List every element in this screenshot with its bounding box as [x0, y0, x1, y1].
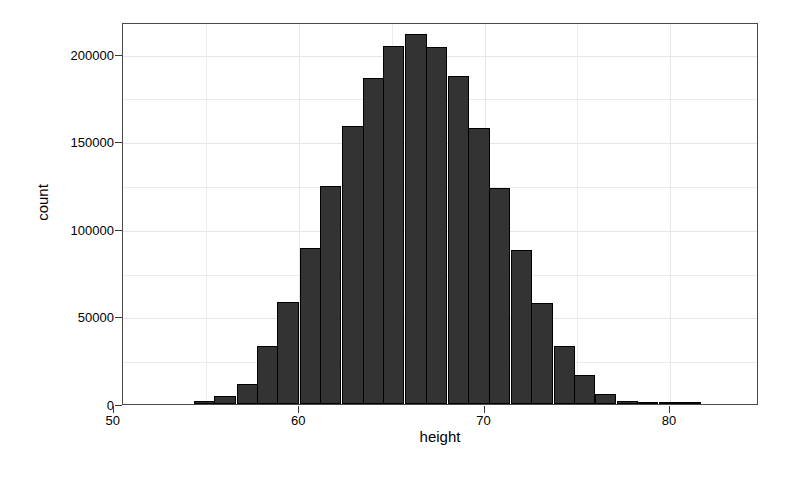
histogram-bar [194, 401, 215, 404]
gridline-vertical-major [670, 24, 671, 404]
x-axis-tick-mark [113, 406, 114, 413]
histogram-bar [659, 402, 680, 404]
histogram-bar [448, 76, 469, 404]
histogram-bar [554, 346, 575, 404]
histogram-bar [214, 396, 235, 404]
histogram-bar [426, 47, 447, 404]
y-axis-tick-mark [115, 142, 122, 143]
histogram-bar [574, 375, 595, 404]
histogram-bar [383, 46, 404, 404]
histogram-bar [320, 186, 341, 404]
histogram-figure: count 050000100000150000200000 50607080 … [0, 0, 791, 477]
y-axis-tick-label: 100000 [52, 222, 114, 237]
histogram-bar [637, 402, 658, 404]
histogram-bar [277, 302, 298, 405]
histogram-bar [300, 248, 321, 404]
gridline-vertical-minor [206, 24, 207, 404]
x-axis-tick-label: 60 [291, 413, 305, 428]
x-axis-tick-label: 70 [476, 413, 490, 428]
histogram-bar [511, 250, 532, 404]
y-axis-tick-label: 50000 [52, 310, 114, 325]
y-axis-tick-mark [115, 405, 122, 406]
y-axis-title: count [30, 0, 54, 405]
histogram-bar [617, 401, 638, 405]
y-axis-title-text: count [34, 184, 51, 221]
x-axis-tick-label: 80 [662, 413, 676, 428]
histogram-bar [363, 78, 384, 404]
x-axis-tick-mark [669, 406, 670, 413]
histogram-bar [531, 303, 552, 404]
y-axis-tick-mark [115, 317, 122, 318]
histogram-bar [468, 128, 489, 404]
x-axis-tick-label: 50 [105, 413, 119, 428]
y-axis-tick-label: 200000 [52, 47, 114, 62]
y-axis-tick-label: 150000 [52, 135, 114, 150]
histogram-bar [237, 384, 258, 404]
histogram-bar [257, 346, 278, 404]
gridline-vertical-minor [577, 24, 578, 404]
y-axis-tick-mark [115, 230, 122, 231]
histogram-bar [405, 34, 426, 404]
x-axis-title: height [122, 428, 758, 445]
y-axis-tick-labels: 050000100000150000200000 [52, 0, 114, 477]
x-axis-tick-mark [298, 406, 299, 413]
y-axis-tick-mark [115, 55, 122, 56]
histogram-bar [342, 126, 363, 404]
histogram-bar [489, 188, 510, 404]
histogram-bar [595, 394, 616, 405]
plot-panel [122, 23, 758, 405]
histogram-bar [680, 402, 701, 404]
x-axis-tick-mark [484, 406, 485, 413]
